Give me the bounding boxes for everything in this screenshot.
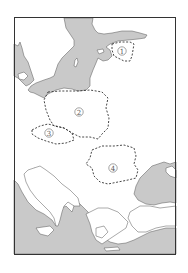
marker-3-label: 3 — [47, 130, 51, 138]
baltic-sea — [28, 18, 147, 98]
marker-4: 4 — [109, 164, 117, 173]
marker-3: 3 — [45, 129, 53, 138]
marker-1-label: 1 — [120, 48, 124, 56]
marker-1: 1 — [118, 47, 126, 56]
marker-4-label: 4 — [111, 165, 116, 173]
marker-2-label: 2 — [77, 109, 81, 117]
europe-map: 1 2 3 4 — [0, 0, 188, 273]
marker-2: 2 — [75, 108, 83, 117]
crete-outline — [104, 247, 120, 251]
